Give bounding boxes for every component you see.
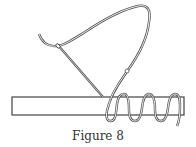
figure-diagram (0, 0, 196, 147)
thread-loop (39, 6, 150, 104)
figure-caption: Figure 8 (0, 128, 196, 144)
rod (12, 97, 184, 115)
needle (57, 44, 103, 97)
